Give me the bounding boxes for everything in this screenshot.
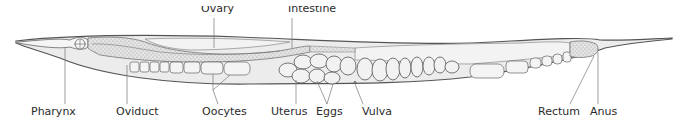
nematode-anatomy-diagram	[0, 0, 687, 128]
label-anus: Anus	[590, 106, 617, 118]
label-vulva: Vulva	[362, 106, 392, 118]
rectum	[570, 41, 598, 58]
label-pharynx: Pharynx	[31, 106, 76, 118]
label-uterus: Uterus	[271, 106, 307, 118]
label-eggs: Eggs	[316, 106, 343, 118]
label-rectum: Rectum	[538, 106, 580, 118]
label-oviduct: Oviduct	[116, 106, 159, 118]
label-oocytes: Oocytes	[202, 106, 247, 118]
